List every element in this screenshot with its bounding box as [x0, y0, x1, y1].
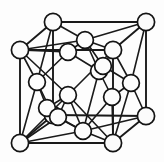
face-center-atom-front: [60, 87, 77, 104]
corner-atom-front-top-right: [104, 41, 121, 58]
face-center-atom-bottom: [75, 123, 92, 140]
tetrahedral-atom-inner-lower: [50, 109, 67, 126]
lattice-diagram-canvas: [0, 0, 164, 162]
tetrahedral-atom-lower-right: [104, 89, 121, 106]
face-center-atom-top: [77, 32, 94, 49]
corner-atom-back-top-right: [137, 13, 154, 30]
corner-atom-front-bottom-left: [11, 134, 28, 151]
corner-atom-front-top-left: [11, 41, 28, 58]
tetrahedral-atom-upper-left: [60, 44, 77, 61]
face-center-atom-right: [123, 75, 140, 92]
corner-atom-front-bottom-right: [104, 134, 121, 151]
corner-atom-back-bottom-right: [137, 107, 154, 124]
tetrahedral-atom-upper-right: [95, 58, 112, 75]
corner-atom-back-top-left: [44, 13, 61, 30]
crystal-lattice-figure: [0, 0, 164, 162]
face-center-atom-left: [29, 74, 46, 91]
